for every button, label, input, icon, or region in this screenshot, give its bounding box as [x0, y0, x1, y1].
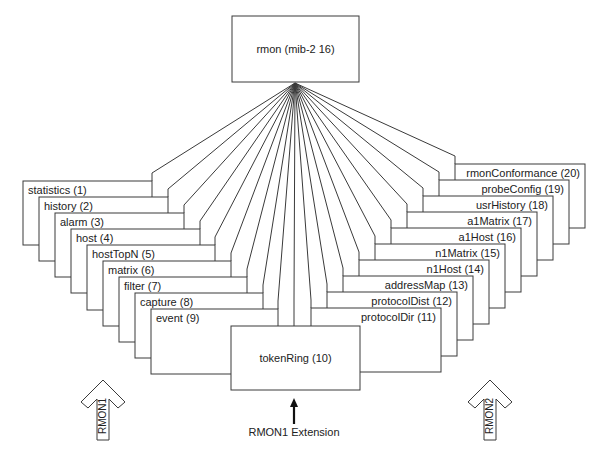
rmon2-arrow-icon: RMON2 [468, 380, 512, 440]
svg-text:RMON2: RMON2 [484, 397, 495, 434]
svg-text:event (9): event (9) [156, 312, 199, 324]
svg-text:history (2): history (2) [44, 200, 93, 212]
svg-text:rmonConformance (20): rmonConformance (20) [466, 167, 580, 179]
svg-text:filter (7): filter (7) [124, 280, 161, 292]
svg-text:probeConfig (19): probeConfig (19) [481, 183, 564, 195]
svg-text:usrHistory (18): usrHistory (18) [476, 199, 548, 211]
svg-text:alarm (3): alarm (3) [60, 216, 104, 228]
svg-text:protocolDist (12): protocolDist (12) [371, 295, 452, 307]
svg-text:capture (8): capture (8) [140, 296, 193, 308]
svg-text:a1Matrix (17): a1Matrix (17) [467, 215, 532, 227]
svg-text:RMON1: RMON1 [97, 397, 108, 434]
svg-text:addressMap (13): addressMap (13) [385, 279, 468, 291]
group-node-tokenring: tokenRing (10) [231, 326, 360, 390]
svg-text:a1Host (16): a1Host (16) [459, 231, 516, 243]
rmon1-arrow-icon: RMON1 [81, 380, 125, 440]
svg-text:matrix (6): matrix (6) [108, 264, 154, 276]
svg-text:tokenRing (10): tokenRing (10) [259, 352, 331, 364]
root-node-label: rmon (mib-2 16) [256, 43, 334, 55]
svg-text:hostTopN (5): hostTopN (5) [92, 248, 155, 260]
svg-text:n1Matrix (15): n1Matrix (15) [435, 247, 500, 259]
root-node-rmon: rmon (mib-2 16) [232, 16, 359, 82]
rmon-mib-tree-diagram: rmon (mib-2 16) statistics (1) history (… [0, 0, 603, 462]
extension-label: RMON1 Extension [248, 426, 339, 438]
svg-text:protocolDir (11): protocolDir (11) [361, 311, 436, 323]
extension-arrow-icon [290, 398, 298, 424]
svg-text:statistics (1): statistics (1) [28, 184, 87, 196]
svg-text:n1Host (14): n1Host (14) [427, 263, 484, 275]
svg-text:host (4): host (4) [76, 232, 113, 244]
